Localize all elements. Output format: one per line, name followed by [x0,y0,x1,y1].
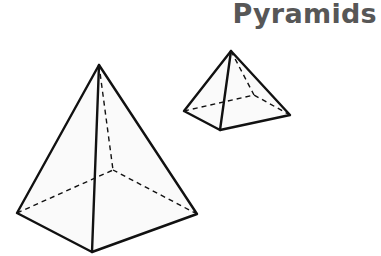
pyramids-diagram [0,0,381,256]
small-square-pyramid [184,51,290,130]
large-square-pyramid [17,65,197,252]
